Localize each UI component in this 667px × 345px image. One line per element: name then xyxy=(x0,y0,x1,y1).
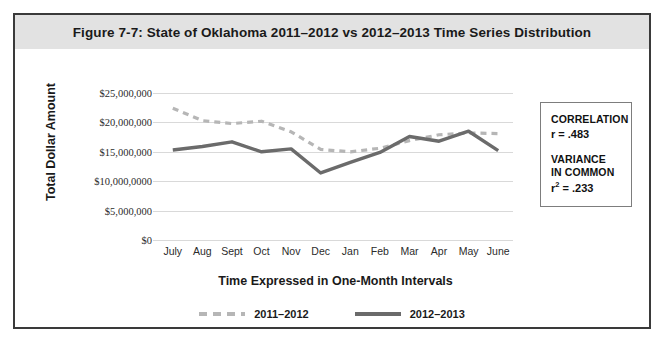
x-axis-tick-label: Nov xyxy=(282,245,301,257)
legend-item-2011-2012: 2011–2012 xyxy=(199,308,308,320)
statistics-box: CORRELATION r = .483 VARIANCE IN COMMON … xyxy=(540,102,632,207)
x-axis-tick-label: Jan xyxy=(342,245,359,257)
figure-title-banner: Figure 7-7: State of Oklahoma 2011–2012 … xyxy=(15,15,649,50)
x-axis-tick-labels: JulyAugSeptOctNovDecJanFebMarAprMayJune xyxy=(158,245,513,263)
series-lines xyxy=(158,93,513,240)
x-axis-tick-label: Apr xyxy=(431,245,447,257)
chart-legend: 2011–2012 2012–2013 xyxy=(15,308,649,320)
x-axis-tick-label: Dec xyxy=(311,245,330,257)
legend-item-2012-2013: 2012–2013 xyxy=(355,308,465,320)
legend-swatch-dashed-icon xyxy=(199,312,245,316)
chart-area: Total Dollar Amount $25,000,000$20,000,0… xyxy=(15,49,649,327)
y-axis-tick-label: $25,000,000 xyxy=(100,88,153,99)
legend-label-2011-2012: 2011–2012 xyxy=(254,308,308,320)
variance-value: r2 = .233 xyxy=(551,180,622,194)
y-axis-tick-label: $0 xyxy=(142,235,153,246)
x-axis-tick-label: Feb xyxy=(371,245,389,257)
legend-swatch-solid-icon xyxy=(355,312,401,316)
page-title: Figure 7-7: State of Oklahoma 2011–2012 … xyxy=(73,25,591,40)
x-axis-tick-label: May xyxy=(459,245,479,257)
correlation-value: r = .483 xyxy=(551,128,622,140)
y-axis-tick-label: $20,000,000 xyxy=(100,117,153,128)
plot-region: $25,000,000$20,000,000$15,000,000$10,000… xyxy=(158,93,513,240)
stats-spacer xyxy=(551,140,622,153)
legend-label-2012-2013: 2012–2013 xyxy=(410,308,465,320)
x-axis-tick-label: Sept xyxy=(221,245,243,257)
y-axis-tick-label: $10,000,0000 xyxy=(94,176,152,187)
y-axis-tick-label: $5,000,000 xyxy=(105,205,152,216)
x-axis-tick-label: June xyxy=(487,245,510,257)
correlation-heading: CORRELATION xyxy=(551,113,622,126)
x-axis-tick-label: July xyxy=(163,245,182,257)
x-axis-title: Time Expressed in One-Month Intervals xyxy=(158,274,513,288)
y-axis-title: Total Dollar Amount xyxy=(44,62,58,222)
y-axis-tickmark xyxy=(153,240,158,241)
gridline xyxy=(158,240,513,241)
x-axis-tick-label: Oct xyxy=(253,245,269,257)
figure-frame: Figure 7-7: State of Oklahoma 2011–2012 … xyxy=(13,13,651,329)
series-line-1 xyxy=(173,108,498,152)
variance-heading-line1: VARIANCE xyxy=(551,153,622,166)
x-axis-tick-label: Aug xyxy=(193,245,212,257)
variance-heading-line2: IN COMMON xyxy=(551,166,622,179)
y-axis-tick-label: $15,000,000 xyxy=(100,146,153,157)
x-axis-tick-label: Mar xyxy=(400,245,418,257)
variance-value-rest: = .233 xyxy=(559,182,593,194)
series-line-2 xyxy=(173,131,498,173)
